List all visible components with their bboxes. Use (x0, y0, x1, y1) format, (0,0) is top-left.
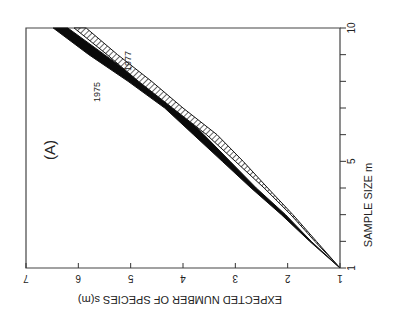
y-tick-label: 6 (75, 273, 81, 284)
y-tick-label: 7 (23, 273, 29, 284)
x-tick-label: 5 (346, 158, 357, 164)
y-axis-expected-species: 1234567 (23, 263, 343, 284)
y-axis-label: EXPECTED NUMBER OF SPECIES s(m) (78, 294, 282, 306)
panel-label: (A) (41, 140, 58, 160)
y-tick-label: 5 (127, 273, 133, 284)
x-axis-sample-size: 1510 (340, 22, 357, 271)
y-tick-label: 4 (180, 273, 186, 284)
y-tick-label: 3 (232, 273, 238, 284)
plot-border (26, 28, 340, 268)
y-tick-label: 2 (284, 273, 290, 284)
x-tick-label: 10 (346, 22, 357, 34)
series-label-1975: 1975 (92, 82, 102, 102)
y-tick-label: 1 (337, 273, 343, 284)
plot-frame (26, 28, 340, 268)
x-tick-label: 1 (346, 265, 357, 271)
x-axis-label: SAMPLE SIZE m (362, 163, 374, 247)
species-accumulation-chart: 1510 1234567 (A) SAMPLE SIZE m EXPECTED … (0, 0, 399, 317)
series-layer (53, 28, 340, 268)
series-band-1975 (53, 28, 340, 268)
series-label-1977: 1977 (123, 51, 133, 71)
